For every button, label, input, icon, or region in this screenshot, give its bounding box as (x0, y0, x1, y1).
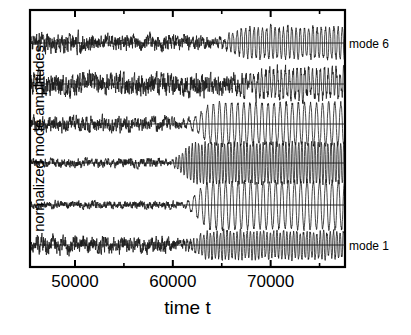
mode-traces (30, 24, 345, 261)
x-axis-label: time t (0, 297, 375, 319)
mode-6-label: mode 6 (349, 37, 389, 51)
x-tick-label-60000: 60000 (123, 272, 223, 292)
y-axis-label: normalized mode amplitudes (30, 39, 47, 239)
x-tick-label-50000: 50000 (25, 272, 125, 292)
x-axis-ticks (75, 10, 320, 267)
mode-amplitude-figure: normalized mode amplitudes time t 500006… (0, 0, 411, 335)
x-tick-label-70000: 70000 (221, 272, 321, 292)
mode-1-label: mode 1 (349, 239, 389, 253)
